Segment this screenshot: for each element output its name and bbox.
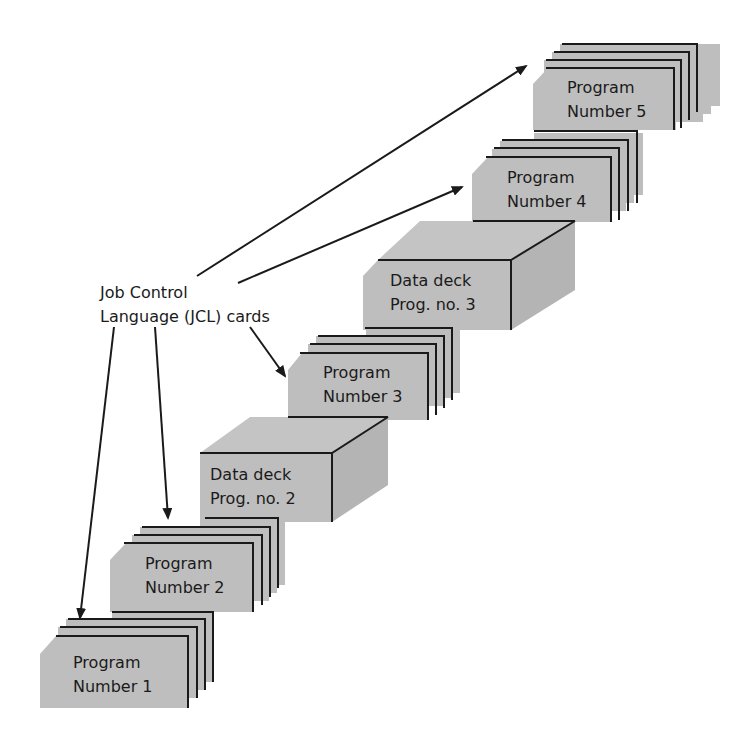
data-deck-2-label-line1: Data deck (210, 465, 292, 484)
program-1-label-line2: Number 1 (73, 677, 153, 696)
program-4-label-line1: Program (507, 168, 575, 187)
data-deck-2-label-line2: Prog. no. 2 (210, 489, 296, 508)
jcl-label-line1: Job Control (99, 283, 188, 302)
jcl-job-stream-diagram: Program Number 5 Program Number 4 Data d… (0, 0, 745, 750)
program-2-deck: Program Number 2 (110, 518, 285, 612)
program-4-label-line2: Number 4 (507, 192, 587, 211)
data-deck-3-label-line1: Data deck (390, 271, 472, 290)
arrow-to-program-2 (155, 327, 168, 518)
program-4-deck: Program Number 4 (472, 131, 643, 222)
program-5-label-line1: Program (567, 78, 635, 97)
arrow-to-program-3 (250, 327, 285, 376)
jcl-label: Job Control Language (JCL) cards (99, 283, 270, 326)
program-3-deck: Program Number 3 (288, 328, 460, 420)
program-1-label-line1: Program (73, 653, 141, 672)
data-deck-3-box: Data deck Prog. no. 3 (363, 221, 575, 330)
program-2-label-line2: Number 2 (145, 578, 225, 597)
program-3-label-line1: Program (323, 363, 391, 382)
data-deck-3-label-line2: Prog. no. 3 (390, 295, 476, 314)
program-2-label-line1: Program (145, 554, 213, 573)
program-1-deck: Program Number 1 (40, 612, 213, 708)
program-5-deck: Program Number 5 (533, 44, 720, 130)
program-5-label-line2: Number 5 (567, 102, 647, 121)
program-3-label-line2: Number 3 (323, 387, 403, 406)
arrow-to-program-1 (80, 327, 114, 618)
jcl-label-line2: Language (JCL) cards (100, 307, 270, 326)
data-deck-2-box: Data deck Prog. no. 2 (200, 417, 388, 522)
